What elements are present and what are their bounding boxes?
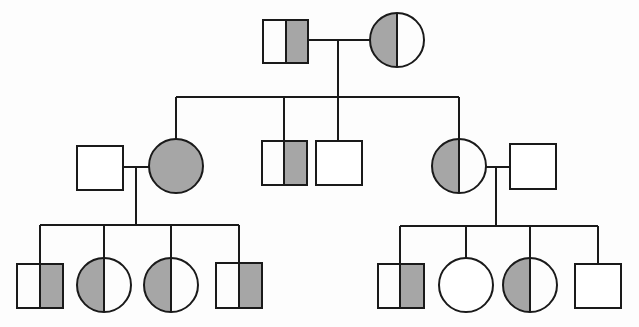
female-carrier-I-2 bbox=[370, 13, 424, 67]
generation-2 bbox=[77, 139, 556, 193]
male-unaffected-spouse-1 bbox=[77, 146, 123, 190]
pedigree-diagram: Three-generation pedigree chart; grey ha… bbox=[0, 0, 639, 327]
male-unaffected-III-8 bbox=[575, 264, 621, 308]
female-carrier-III-7 bbox=[503, 258, 557, 312]
male-carrier-I-1 bbox=[263, 20, 308, 63]
female-carrier-II-4 bbox=[432, 139, 486, 193]
female-unaffected-III-6 bbox=[439, 258, 493, 312]
male-carrier-III-1 bbox=[17, 264, 63, 308]
female-carrier-III-2 bbox=[77, 258, 131, 312]
male-unaffected-spouse-2 bbox=[510, 144, 556, 189]
female-affected-II-1 bbox=[149, 139, 203, 193]
male-carrier-III-4 bbox=[216, 263, 262, 308]
male-carrier-III-5 bbox=[378, 264, 424, 308]
pedigree-canvas bbox=[0, 0, 639, 327]
female-carrier-III-3 bbox=[144, 258, 198, 312]
male-carrier-II-2 bbox=[262, 141, 307, 185]
male-unaffected-II-3 bbox=[316, 141, 362, 185]
generation-3 bbox=[17, 258, 621, 312]
